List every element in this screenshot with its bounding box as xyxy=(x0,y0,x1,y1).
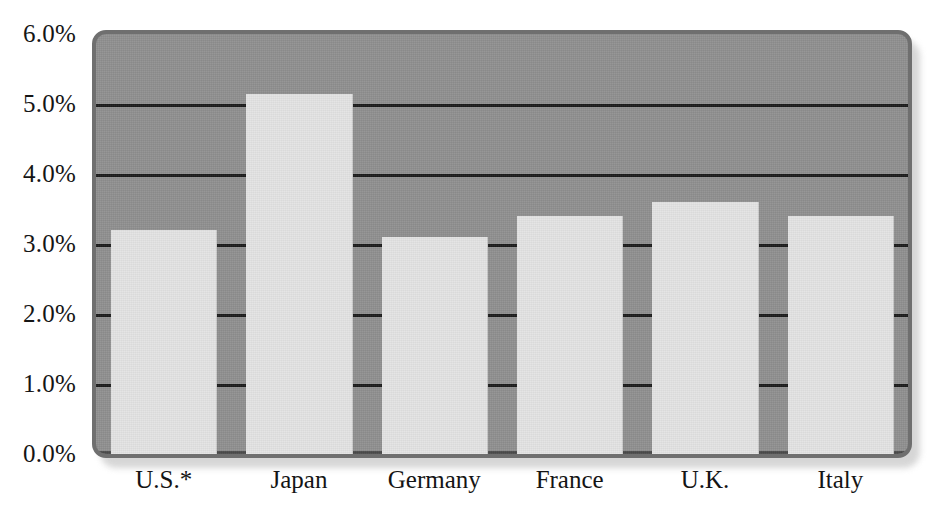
x-tick-label: Japan xyxy=(271,466,328,494)
y-tick-label: 2.0% xyxy=(23,300,76,328)
plot-inner xyxy=(96,34,908,454)
x-tick-label: U.S.* xyxy=(135,466,192,494)
y-tick-label: 5.0% xyxy=(23,90,76,118)
x-tick-label: Italy xyxy=(817,466,863,494)
bar xyxy=(788,216,895,454)
bar xyxy=(246,94,353,455)
y-tick-label: 4.0% xyxy=(23,160,76,188)
y-tick-label: 1.0% xyxy=(23,370,76,398)
y-axis: 6.0% 5.0% 4.0% 3.0% 2.0% 1.0% 0.0% xyxy=(0,0,88,516)
bar xyxy=(652,202,759,454)
y-tick-label: 6.0% xyxy=(23,20,76,48)
bar-chart: 6.0% 5.0% 4.0% 3.0% 2.0% 1.0% 0.0% U.S.*… xyxy=(0,0,940,516)
x-tick-label: Germany xyxy=(388,466,481,494)
x-tick-label: France xyxy=(536,466,604,494)
x-tick-label: U.K. xyxy=(681,466,730,494)
bar xyxy=(382,237,489,454)
y-tick-label: 3.0% xyxy=(23,230,76,258)
bar xyxy=(517,216,624,454)
x-axis: U.S.*JapanGermanyFranceU.K.Italy xyxy=(92,466,912,514)
bar xyxy=(111,230,218,454)
bars xyxy=(96,34,908,454)
plot-area xyxy=(92,30,912,458)
y-tick-label: 0.0% xyxy=(23,440,76,468)
